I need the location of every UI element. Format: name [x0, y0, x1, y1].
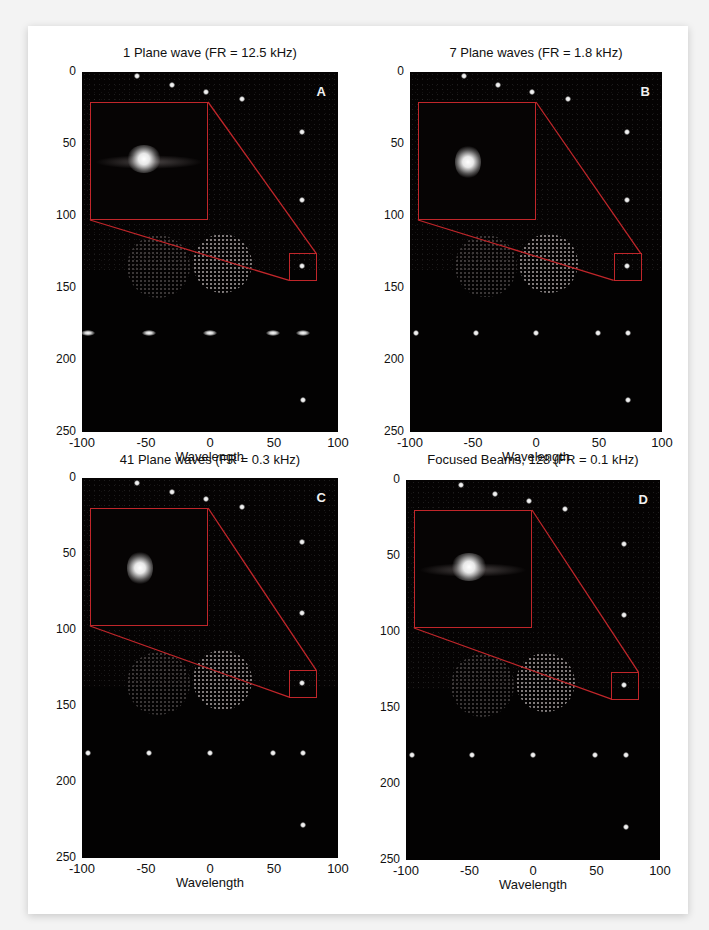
point-target	[299, 197, 305, 203]
x-tick-label: -50	[126, 435, 166, 450]
x-tick-label: -100	[62, 861, 102, 876]
cyst-region	[127, 652, 190, 715]
zoom-roi-box	[614, 253, 642, 281]
cyst-region	[451, 654, 514, 717]
ultrasound-image: D	[406, 480, 660, 860]
point-target	[625, 397, 631, 403]
point-target	[413, 330, 419, 336]
y-tick-label: 0	[46, 64, 76, 78]
psf-spot	[455, 145, 481, 179]
point-target	[299, 129, 305, 135]
point-target	[239, 504, 245, 510]
point-target	[461, 73, 467, 79]
y-tick-label: 150	[374, 280, 404, 294]
y-tick-label: 150	[370, 700, 400, 714]
point-target	[492, 491, 498, 497]
point-target	[300, 750, 306, 756]
y-tick-label: 100	[46, 622, 76, 636]
zoom-inset	[90, 508, 208, 626]
point-target	[625, 330, 631, 336]
point-target	[299, 539, 305, 545]
y-tick-label: 200	[46, 774, 76, 788]
ultrasound-image: B	[410, 72, 662, 432]
y-tick-label: 50	[46, 546, 76, 560]
x-axis-label: Wavelength	[150, 875, 270, 890]
x-tick-label: 100	[318, 435, 358, 450]
point-target	[296, 330, 310, 336]
point-target	[134, 73, 140, 79]
zoom-inset	[90, 102, 208, 220]
x-tick-label: 50	[254, 861, 294, 876]
x-tick-label: 0	[190, 435, 230, 450]
point-target	[409, 752, 415, 758]
point-target	[203, 89, 209, 95]
point-target	[624, 129, 630, 135]
point-target	[270, 750, 276, 756]
point-target	[495, 82, 501, 88]
y-tick-label: 150	[46, 280, 76, 294]
point-target	[595, 330, 601, 336]
y-tick-label: 50	[374, 136, 404, 150]
psf-spot	[127, 551, 153, 585]
point-target	[624, 197, 630, 203]
x-tick-label: -100	[390, 435, 430, 450]
y-tick-label: 0	[46, 470, 76, 484]
point-target	[592, 752, 598, 758]
panel-title: 1 Plane wave (FR = 12.5 kHz)	[82, 45, 338, 60]
zoom-roi-box	[289, 253, 317, 281]
x-tick-label: -50	[450, 863, 490, 878]
zoom-roi-box	[611, 672, 639, 700]
point-target	[529, 89, 535, 95]
point-target	[134, 480, 140, 486]
ultrasound-image: A	[82, 72, 338, 432]
panel-title: 41 Plane waves (FR = 0.3 kHz)	[82, 452, 338, 467]
x-tick-label: 50	[254, 435, 294, 450]
x-tick-label: 0	[516, 435, 556, 450]
y-tick-label: 150	[46, 698, 76, 712]
x-tick-label: 50	[579, 435, 619, 450]
point-target	[299, 610, 305, 616]
y-tick-label: 0	[370, 472, 400, 486]
point-target	[565, 96, 571, 102]
y-tick-label: 100	[370, 624, 400, 638]
y-tick-label: 50	[370, 548, 400, 562]
point-target	[458, 482, 464, 488]
panel-title: Focused Beams, 128 (FR = 0.1 kHz)	[406, 452, 660, 467]
point-target	[300, 397, 306, 403]
point-target	[82, 330, 95, 336]
psf-spot	[451, 553, 487, 581]
point-target	[146, 750, 152, 756]
point-target	[621, 541, 627, 547]
point-target	[533, 330, 539, 336]
zoom-inset	[414, 510, 532, 628]
x-tick-label: 50	[577, 863, 617, 878]
panel-letter: B	[641, 84, 650, 99]
zoom-inset	[418, 102, 536, 220]
point-target	[473, 330, 479, 336]
point-target	[530, 752, 536, 758]
panel-letter: D	[639, 492, 648, 507]
cyst-region	[455, 235, 517, 297]
panel-letter: C	[317, 490, 326, 505]
x-tick-label: 0	[513, 863, 553, 878]
x-tick-label: 100	[640, 863, 680, 878]
point-target	[207, 750, 213, 756]
cyst-region	[519, 234, 577, 292]
point-target	[85, 750, 91, 756]
cyst-region	[193, 234, 252, 293]
x-tick-label: 0	[190, 861, 230, 876]
psf-spot	[127, 145, 161, 173]
cyst-region	[516, 653, 575, 712]
point-target	[621, 612, 627, 618]
point-target	[623, 752, 629, 758]
point-target	[203, 496, 209, 502]
x-tick-label: 100	[642, 435, 682, 450]
x-tick-label: -50	[126, 861, 166, 876]
point-target	[239, 96, 245, 102]
point-target	[623, 824, 629, 830]
y-tick-label: 200	[374, 352, 404, 366]
ultrasound-image: C	[82, 478, 338, 858]
x-tick-label: -50	[453, 435, 493, 450]
cyst-region	[127, 235, 190, 298]
y-tick-label: 100	[46, 208, 76, 222]
